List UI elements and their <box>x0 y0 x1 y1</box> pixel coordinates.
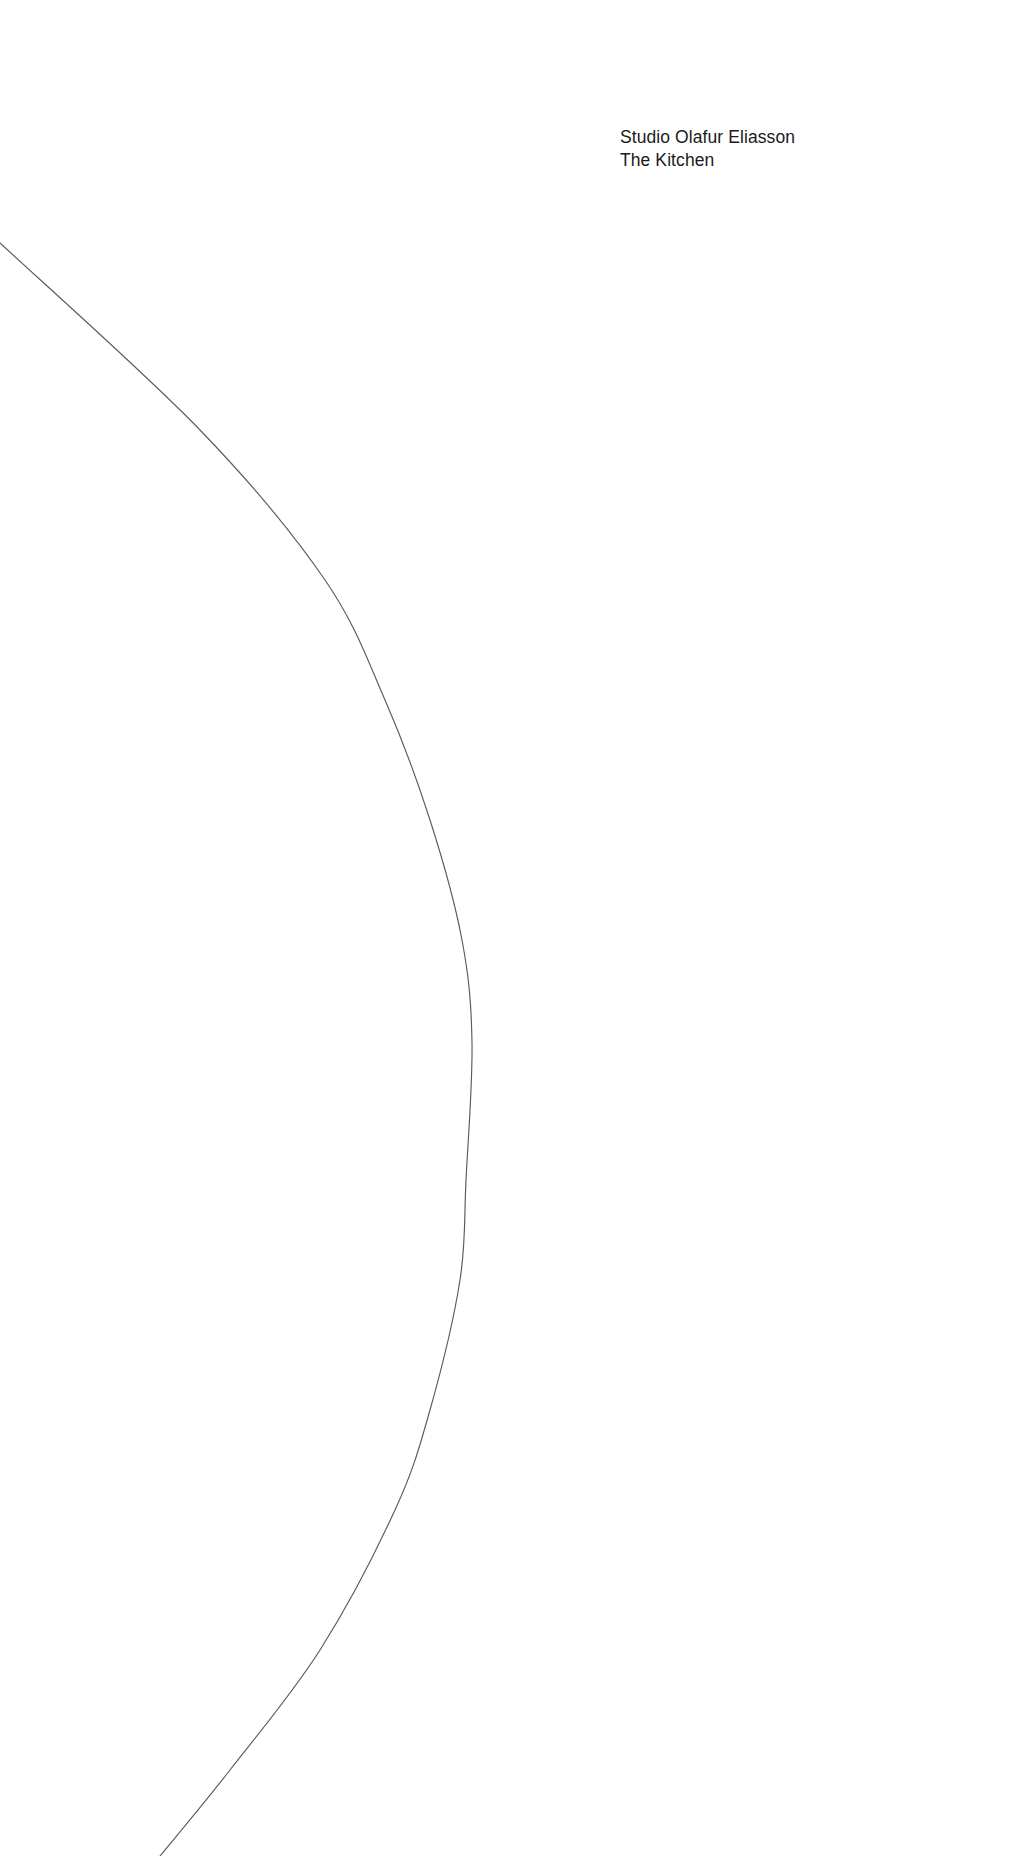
titleblock-line-studio: Studio Olafur Eliasson <box>620 126 795 149</box>
arc-svg <box>0 0 1009 1856</box>
thin-arc-line <box>0 243 472 1856</box>
artwork-layer <box>0 0 1009 1856</box>
poster-canvas: Studio Olafur Eliasson The Kitchen <box>0 0 1009 1856</box>
titleblock: Studio Olafur Eliasson The Kitchen <box>620 126 795 172</box>
titleblock-line-venue: The Kitchen <box>620 149 795 172</box>
